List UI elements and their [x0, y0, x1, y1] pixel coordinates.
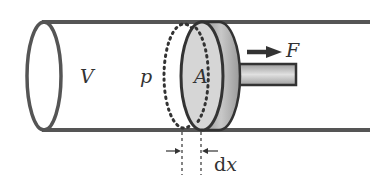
displacement-x: x — [226, 153, 237, 175]
cylinder-opening — [27, 22, 61, 130]
force-label: F — [285, 39, 300, 61]
piston-rod — [238, 64, 296, 85]
piston-cylinder-diagram: V p A F dx — [0, 0, 392, 187]
displacement-d: d — [214, 153, 226, 175]
displacement-label: dx — [214, 153, 237, 175]
area-label: A — [192, 65, 208, 87]
force-arrow — [247, 46, 282, 58]
pressure-label: p — [140, 65, 152, 87]
volume-label: V — [80, 65, 96, 87]
displacement-marker — [166, 132, 218, 175]
